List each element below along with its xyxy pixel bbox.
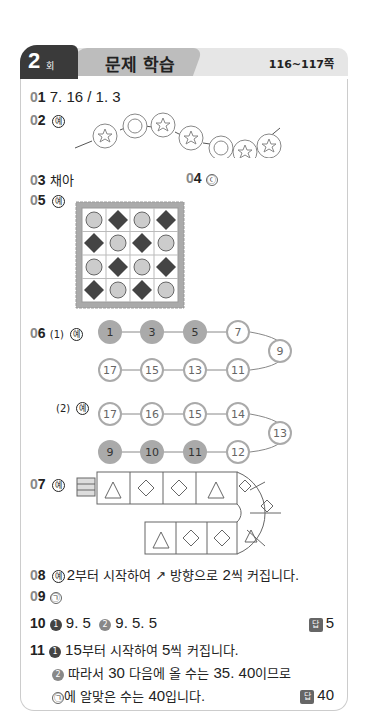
answer-06: 06 (1) 예	[30, 325, 85, 341]
direction-arrow-icon: ↗	[155, 568, 166, 583]
section-title: 문제 학습	[105, 51, 175, 76]
answer-10: 10 1 9. 5 2 9. 5. 5 답5	[30, 614, 348, 631]
session-suffix: 회	[46, 59, 54, 72]
answer-label: 답	[309, 618, 323, 632]
svg-text:13: 13	[188, 364, 202, 377]
svg-text:12: 12	[231, 446, 245, 459]
example-mark: 예	[76, 402, 89, 415]
svg-text:15: 15	[188, 408, 202, 421]
answer-text: 채아	[50, 173, 74, 188]
svg-text:13: 13	[273, 427, 287, 440]
part-label: (2)	[56, 403, 70, 414]
answer-02: 02 예	[30, 112, 67, 128]
answer-07: 07 예	[30, 476, 67, 492]
step-2-marker: 2	[52, 669, 64, 681]
session-badge: 2 회	[20, 45, 78, 79]
svg-text:14: 14	[231, 408, 245, 421]
step-1-marker: 1	[50, 619, 62, 631]
answer-09: 09 ㉠	[30, 588, 62, 604]
answer-08: 08 예2부터 시작하여 ↗ 방향으로 2씩 커집니다.	[30, 565, 299, 584]
example-mark: 예	[70, 328, 83, 341]
shape-grid-figure	[74, 200, 186, 310]
part-label: (1)	[50, 329, 64, 340]
answer-11-step3: ㉠에 알맞은 수는 40입니다. 답40	[52, 686, 348, 705]
svg-text:17: 17	[103, 364, 117, 377]
bead-pattern-figure	[75, 108, 315, 158]
svg-text:11: 11	[188, 446, 202, 459]
shape-track-figure	[75, 470, 285, 560]
question-number: 04	[186, 170, 202, 186]
session-number: 2	[28, 48, 40, 74]
svg-text:7: 7	[235, 326, 242, 339]
answer-06-part2: (2) 예	[56, 400, 91, 415]
example-mark: 예	[52, 115, 65, 128]
svg-text:9: 9	[107, 446, 114, 459]
question-number: 07	[30, 476, 46, 492]
svg-text:1: 1	[107, 326, 114, 339]
svg-text:10: 10	[145, 446, 159, 459]
svg-text:11: 11	[231, 364, 245, 377]
answer-label: 답	[300, 690, 314, 704]
example-mark: 예	[52, 479, 65, 492]
question-number: 11	[30, 642, 45, 658]
svg-text:3: 3	[149, 326, 156, 339]
answer-05: 05 예	[30, 192, 67, 208]
example-mark: 예	[52, 195, 65, 208]
answer-text: 7. 16 / 1. 3	[50, 88, 121, 105]
question-number: 10	[30, 615, 46, 631]
answer-symbol: ㉠	[50, 592, 62, 604]
svg-text:5: 5	[192, 326, 199, 339]
answer-01: 01 7. 16 / 1. 3	[30, 88, 121, 105]
answer-11-step2: 2 따라서 30 다음에 올 수는 35. 40이므로	[52, 663, 291, 682]
question-number: 09	[30, 588, 46, 604]
svg-text:16: 16	[145, 408, 159, 421]
question-number: 06	[30, 325, 46, 341]
step-1-marker: 1	[49, 646, 61, 658]
example-mark: 예	[52, 570, 65, 583]
answer-11: 11 1 15부터 시작하여 5씩 커집니다.	[30, 640, 239, 659]
final-answer: 답5	[309, 614, 334, 632]
page-range: 116~117쪽	[269, 55, 334, 71]
number-chain-figure-1: 1357 9 17151311	[90, 318, 300, 388]
number-chain-figure-2: 17161514 13 9101112	[90, 400, 300, 470]
svg-text:15: 15	[145, 364, 159, 377]
question-number: 08	[30, 567, 46, 583]
question-number: 01	[30, 89, 46, 105]
question-number: 05	[30, 192, 46, 208]
answer-symbol: ⓒ	[206, 174, 218, 186]
svg-text:9: 9	[277, 345, 284, 358]
answer-03: 03 채아	[30, 170, 74, 189]
step-2-marker: 2	[99, 619, 111, 631]
svg-text:17: 17	[103, 408, 117, 421]
question-number: 03	[30, 172, 46, 188]
answer-04: 04 ⓒ	[186, 170, 218, 186]
question-number: 02	[30, 112, 46, 128]
final-answer: 답40	[300, 686, 334, 704]
section-header: 2 회 문제 학습 116~117쪽	[20, 45, 348, 79]
